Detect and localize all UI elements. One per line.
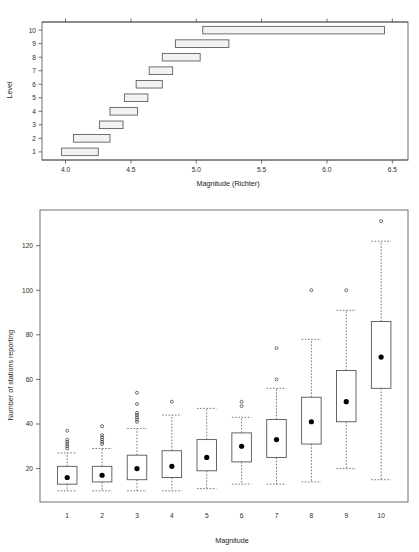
- boxplot-group: [267, 347, 287, 484]
- bottom-x-tick-label: 8: [310, 512, 314, 519]
- bottom-y-tick-label: 80: [26, 331, 34, 338]
- box-iqr: [336, 370, 356, 421]
- boxplot-group: [302, 289, 322, 482]
- chart-magnitude-by-level: 4.04.55.05.56.06.5 12345678910 Magnitude…: [0, 0, 419, 200]
- top-y-tick-label: 10: [29, 27, 37, 34]
- top-y-axis-ticks: 12345678910: [29, 27, 42, 156]
- level-interval-bar: [110, 107, 137, 115]
- bottom-y-tick-label: 40: [26, 420, 34, 427]
- figure-page: 4.04.55.05.56.06.5 12345678910 Magnitude…: [0, 0, 419, 552]
- bottom-y-axis-title: Number of stations reporting: [6, 330, 15, 421]
- outlier-point: [275, 347, 278, 350]
- bottom-y-tick-label: 20: [26, 465, 34, 472]
- outlier-point: [275, 378, 278, 381]
- outlier-point: [135, 391, 138, 394]
- bottom-x-axis-title: Magnitude: [215, 536, 249, 545]
- top-chart-svg: 4.04.55.05.56.06.5 12345678910 Magnitude…: [0, 0, 419, 200]
- top-y-tick-label: 8: [32, 54, 36, 61]
- top-x-axis-title: Magnitude (Richter): [196, 179, 259, 188]
- top-x-tick-label: 6.0: [322, 166, 331, 173]
- median-dot: [169, 464, 174, 469]
- bottom-x-tick-label: 1: [65, 512, 69, 519]
- bottom-x-axis-ticks: 12345678910: [65, 512, 385, 519]
- level-interval-bar: [203, 26, 385, 34]
- top-y-tick-label: 2: [32, 135, 36, 142]
- level-interval-bar: [124, 94, 148, 102]
- boxplot-group: [57, 429, 77, 491]
- bottom-x-tick-label: 4: [170, 512, 174, 519]
- median-dot: [344, 399, 349, 404]
- chart-stations-by-magnitude: 20406080100120 12345678910 Magnitude Num…: [0, 200, 419, 552]
- median-dot: [274, 437, 279, 442]
- outlier-point: [135, 402, 138, 405]
- bottom-x-tick-label: 10: [377, 512, 385, 519]
- level-interval-bar: [162, 53, 200, 61]
- median-dot: [309, 419, 314, 424]
- boxplot-series: [57, 220, 390, 491]
- level-interval-bar: [175, 40, 229, 48]
- bottom-y-tick-label: 60: [26, 376, 34, 383]
- outlier-point: [240, 400, 243, 403]
- top-y-tick-label: 5: [32, 94, 36, 101]
- boxplot-group: [232, 400, 252, 484]
- outlier-point: [380, 220, 383, 223]
- outlier-point: [66, 429, 69, 432]
- top-x-tick-label: 4.0: [61, 166, 70, 173]
- top-x-tick-label: 4.5: [126, 166, 135, 173]
- boxplot-group: [197, 408, 217, 488]
- top-y-tick-label: 6: [32, 81, 36, 88]
- outlier-point: [345, 289, 348, 292]
- top-y-tick-label: 9: [32, 40, 36, 47]
- level-interval-bar: [62, 148, 99, 156]
- bottom-y-axis-ticks: 20406080100120: [22, 242, 40, 472]
- bottom-x-tick-label: 6: [240, 512, 244, 519]
- top-x-tick-label: 5.0: [192, 166, 201, 173]
- top-y-tick-label: 1: [32, 148, 36, 155]
- boxplot-group: [162, 400, 182, 491]
- boxplot-group: [127, 391, 147, 491]
- bottom-x-tick-label: 7: [275, 512, 279, 519]
- top-x-tick-label: 6.5: [388, 166, 397, 173]
- bottom-y-tick-label: 120: [22, 242, 33, 249]
- median-dot: [239, 444, 244, 449]
- top-x-tick-label: 5.5: [257, 166, 266, 173]
- top-y-tick-label: 7: [32, 67, 36, 74]
- bottom-x-tick-label: 3: [135, 512, 139, 519]
- level-interval-bar: [100, 121, 124, 129]
- outlier-point: [101, 425, 104, 428]
- bottom-frame-rect: [40, 210, 408, 502]
- median-dot: [134, 466, 139, 471]
- level-interval-bar: [149, 67, 173, 75]
- level-interval-bar: [136, 80, 162, 88]
- median-dot: [99, 473, 104, 478]
- bottom-plot-frame: [40, 210, 408, 502]
- median-dot: [65, 475, 70, 480]
- bottom-y-tick-label: 100: [22, 287, 33, 294]
- median-dot: [379, 355, 384, 360]
- level-interval-bar: [73, 135, 110, 143]
- bottom-x-tick-label: 2: [100, 512, 104, 519]
- top-y-tick-label: 4: [32, 108, 36, 115]
- boxplot-group: [371, 220, 391, 480]
- outlier-point: [310, 289, 313, 292]
- median-dot: [204, 455, 209, 460]
- bottom-chart-svg: 20406080100120 12345678910 Magnitude Num…: [0, 200, 419, 552]
- top-y-tick-label: 3: [32, 121, 36, 128]
- outlier-point: [240, 405, 243, 408]
- boxplot-group: [92, 425, 112, 491]
- top-y-axis-title: Level: [5, 81, 14, 99]
- bottom-x-tick-label: 9: [344, 512, 348, 519]
- bottom-x-tick-label: 5: [205, 512, 209, 519]
- outlier-point: [170, 400, 173, 403]
- boxplot-group: [336, 289, 356, 469]
- top-bar-series: [62, 26, 385, 155]
